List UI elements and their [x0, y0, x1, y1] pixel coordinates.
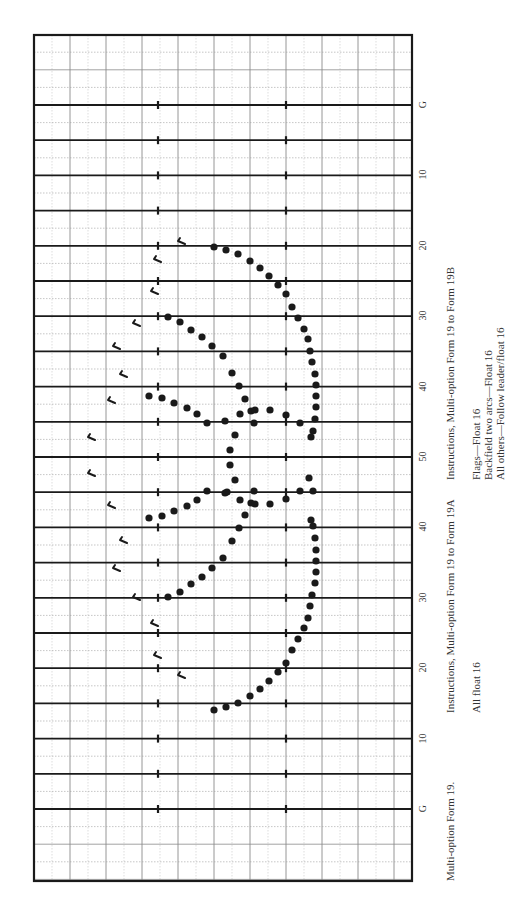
flag-icon: [113, 565, 120, 571]
band-member-dot: [312, 568, 319, 575]
band-member-dots: [145, 243, 319, 713]
instructions-b-line-1: Flags—Float 16: [470, 409, 482, 480]
flag-icon: [178, 672, 185, 678]
band-member-dot: [176, 318, 183, 325]
band-member-dot: [288, 303, 295, 310]
band-member-dot: [164, 593, 171, 600]
band-member-dot: [312, 381, 319, 388]
band-member-dot: [228, 537, 235, 544]
band-member-dot: [266, 406, 273, 413]
band-member-dot: [203, 487, 210, 494]
band-member-dot: [296, 419, 303, 426]
band-member-dot: [265, 272, 272, 279]
band-member-dot: [296, 487, 303, 494]
flag-icon: [108, 397, 115, 403]
band-member-dot: [187, 580, 194, 587]
band-member-dot: [251, 406, 258, 413]
band-member-dot: [208, 342, 215, 349]
band-member-dot: [210, 706, 217, 713]
band-member-dot: [164, 313, 171, 320]
band-member-dot: [176, 588, 183, 595]
band-member-dot: [158, 394, 165, 401]
band-member-dot: [294, 314, 301, 321]
band-member-dot: [231, 476, 238, 483]
band-member-dot: [170, 507, 177, 514]
band-member-dot: [282, 495, 289, 502]
band-member-dot: [241, 511, 248, 518]
band-member-dot: [228, 369, 235, 376]
yard-label: 40: [417, 374, 428, 398]
band-member-dot: [183, 404, 190, 411]
flag-icon: [88, 470, 95, 476]
band-member-dot: [226, 446, 233, 453]
band-member-dot: [300, 624, 307, 631]
band-member-dot: [219, 554, 226, 561]
yard-label: 20: [417, 233, 428, 257]
flag-icon: [178, 238, 185, 244]
band-member-dot: [235, 524, 242, 531]
yard-label: 30: [417, 585, 428, 609]
band-member-dot: [145, 514, 152, 521]
band-member-dot: [282, 659, 289, 666]
form-title: Multi-option Form 19.: [444, 782, 456, 881]
yard-label: G: [417, 93, 428, 117]
band-member-dot: [274, 281, 281, 288]
band-member-dot: [235, 382, 242, 389]
flag-markers: [88, 238, 185, 678]
band-member-dot: [256, 264, 263, 271]
flag-icon: [133, 320, 140, 326]
band-member-dot: [305, 474, 312, 481]
band-member-dot: [250, 487, 257, 494]
band-member-dot: [311, 534, 318, 541]
band-member-dot: [234, 250, 241, 257]
yard-label: 40: [417, 515, 428, 539]
band-member-dot: [236, 410, 243, 417]
band-member-dot: [236, 496, 243, 503]
band-member-dot: [246, 692, 253, 699]
flag-icon: [120, 371, 127, 377]
band-member-dot: [312, 557, 319, 564]
band-member-dot: [158, 512, 165, 519]
flag-icon: [120, 537, 127, 543]
yard-label: 50: [417, 445, 428, 469]
band-member-dot: [304, 335, 311, 342]
band-member-dot: [311, 579, 318, 586]
instructions-b-line-3: All others—Follow leader/float 16: [494, 328, 506, 480]
band-member-dot: [234, 699, 241, 706]
flag-icon: [108, 502, 115, 508]
flag-icon: [151, 620, 158, 626]
band-member-dot: [309, 487, 316, 494]
yard-lines: [34, 105, 412, 809]
band-member-dot: [312, 403, 319, 410]
band-member-dot: [294, 635, 301, 642]
band-member-dot: [274, 668, 281, 675]
yard-label: 10: [417, 726, 428, 750]
band-member-dot: [307, 516, 314, 523]
yard-label: 10: [417, 163, 428, 187]
band-member-dot: [231, 431, 238, 438]
instructions-b-line-2: Backfield two arcs—Float 16: [482, 350, 494, 480]
band-member-dot: [222, 703, 229, 710]
band-member-dot: [226, 461, 233, 468]
field-grid: [34, 35, 412, 881]
band-member-dot: [210, 243, 217, 250]
band-member-dot: [198, 333, 205, 340]
band-member-dot: [312, 546, 319, 553]
flag-icon: [151, 288, 158, 294]
instructions-a-line-1: All float 16: [470, 662, 482, 713]
band-member-dot: [203, 419, 210, 426]
band-member-dot: [221, 489, 228, 496]
flag-icon: [113, 343, 120, 349]
instructions-b-heading: Instructions, Multi-option Form 19 to Fo…: [444, 267, 456, 480]
band-member-dot: [304, 614, 311, 621]
band-member-dot: [193, 410, 200, 417]
band-member-dot: [300, 325, 307, 332]
band-member-dot: [170, 399, 177, 406]
yard-label: G: [417, 797, 428, 821]
band-member-dot: [312, 392, 319, 399]
band-member-dot: [187, 326, 194, 333]
band-member-dot: [306, 602, 313, 609]
yard-label: 20: [417, 656, 428, 680]
band-member-dot: [198, 573, 205, 580]
band-member-dot: [256, 685, 263, 692]
